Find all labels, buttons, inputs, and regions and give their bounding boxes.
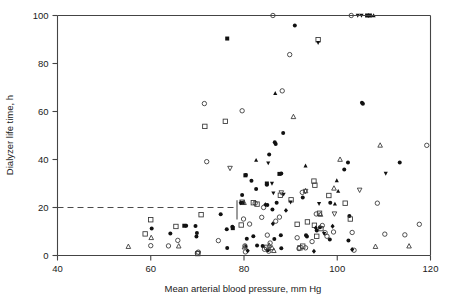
data-point-filled-circle [279, 233, 283, 237]
data-point-filled-circle [245, 237, 249, 241]
data-point-filled-circle [255, 243, 259, 247]
y-tick-label: 80 [38, 58, 49, 69]
data-point-open-circle [417, 222, 421, 226]
data-point-open-circle [350, 230, 354, 234]
data-point-open-triangle-up [373, 244, 378, 248]
chart-figure: 406080100120020406080100 Mean arterial b… [0, 0, 456, 301]
data-point-filled-circle [225, 227, 229, 231]
data-point-filled-circle [281, 131, 285, 135]
data-point-open-triangle-up [126, 244, 131, 248]
data-point-filled-diamond [331, 224, 335, 229]
series-filled-triangle-up [244, 13, 376, 247]
data-point-filled-triangle-up [333, 202, 337, 206]
data-point-filled-circle [301, 195, 305, 199]
data-point-open-circle [265, 233, 269, 237]
data-point-open-square [315, 234, 319, 238]
data-point-filled-circle [240, 193, 244, 197]
data-point-open-circle [202, 101, 206, 105]
data-point-filled-triangle-down [384, 172, 388, 176]
data-points-layer [126, 13, 429, 256]
data-point-filled-square [182, 224, 186, 228]
data-point-filled-circle [225, 246, 229, 250]
data-point-open-square [149, 218, 153, 222]
data-point-filled-circle [361, 102, 365, 106]
data-point-open-square [143, 232, 147, 236]
data-point-open-circle [310, 239, 314, 243]
series-filled-circle [150, 24, 402, 253]
data-point-open-triangle-down [228, 166, 233, 170]
x-tick-label: 120 [423, 263, 439, 274]
x-tick-label: 100 [329, 263, 345, 274]
data-point-filled-circle [254, 187, 258, 191]
data-point-open-triangle-down [332, 212, 337, 216]
data-point-filled-circle [346, 160, 350, 164]
data-point-open-circle [247, 222, 251, 226]
data-point-open-square [203, 124, 207, 128]
data-point-filled-circle [272, 237, 276, 241]
y-tick-label: 100 [33, 10, 49, 21]
x-tick-label: 60 [145, 263, 156, 274]
axes-layer [58, 16, 431, 256]
data-point-open-square [305, 220, 309, 224]
y-axis-title: Dialyzer life time, h [4, 95, 15, 175]
data-point-filled-triangle-down [289, 201, 293, 205]
data-point-open-circle [260, 215, 264, 219]
data-point-filled-triangle-down [271, 191, 275, 195]
data-point-filled-circle [249, 179, 253, 183]
data-point-filled-circle [270, 207, 274, 211]
series-open-circle [149, 13, 429, 255]
data-point-filled-triangle-down [322, 232, 326, 236]
data-point-open-circle [277, 215, 281, 219]
data-point-open-circle [303, 246, 307, 250]
data-point-filled-triangle-down [270, 182, 274, 186]
data-point-open-circle [149, 243, 153, 247]
data-point-open-triangle-up [176, 244, 181, 248]
data-point-filled-square [231, 226, 235, 230]
series-open-triangle-down [228, 166, 362, 216]
data-point-filled-circle [194, 235, 198, 239]
data-point-filled-circle [398, 161, 402, 165]
data-point-filled-circle [195, 231, 199, 235]
data-point-filled-circle [328, 201, 332, 205]
data-point-open-circle [166, 244, 170, 248]
data-point-open-circle [325, 234, 329, 238]
data-point-filled-circle [194, 224, 198, 228]
data-point-open-square [327, 193, 331, 197]
data-point-filled-circle [275, 201, 279, 205]
data-point-filled-triangle-up [254, 158, 258, 162]
data-point-filled-diamond [271, 221, 275, 226]
data-point-filled-circle [251, 234, 255, 238]
data-point-filled-triangle-up [336, 189, 340, 193]
data-point-open-circle [240, 109, 244, 113]
data-point-open-circle [274, 219, 278, 223]
data-point-filled-circle [219, 212, 223, 216]
y-tick-label: 40 [38, 154, 49, 165]
data-point-filled-triangle-up [303, 163, 307, 167]
data-point-open-square [199, 213, 203, 217]
data-point-filled-circle [293, 24, 297, 28]
data-point-open-square [223, 119, 227, 123]
data-point-open-circle [403, 233, 407, 237]
data-point-filled-circle [274, 142, 278, 146]
data-point-open-triangle-up [332, 186, 337, 190]
data-point-filled-circle [267, 152, 271, 156]
data-point-open-circle [425, 143, 429, 147]
data-point-filled-circle [168, 231, 172, 235]
x-tick-label: 40 [52, 263, 63, 274]
data-point-open-circle [216, 238, 220, 242]
reference-annotations-layer [58, 200, 238, 219]
series-filled-square [182, 14, 372, 231]
data-point-filled-triangle-down [316, 41, 320, 45]
data-point-filled-triangle-up [335, 178, 339, 182]
data-point-filled-square [225, 37, 229, 41]
data-point-open-circle [287, 52, 291, 56]
data-point-open-triangle-up [338, 157, 343, 161]
data-point-filled-circle [279, 246, 283, 250]
data-point-open-square [343, 201, 347, 205]
data-point-open-circle [176, 238, 180, 242]
data-point-open-circle [383, 232, 387, 236]
data-point-filled-circle [342, 168, 346, 172]
data-point-open-square [239, 223, 243, 227]
data-point-filled-circle [305, 235, 309, 239]
data-point-open-square [295, 222, 299, 226]
